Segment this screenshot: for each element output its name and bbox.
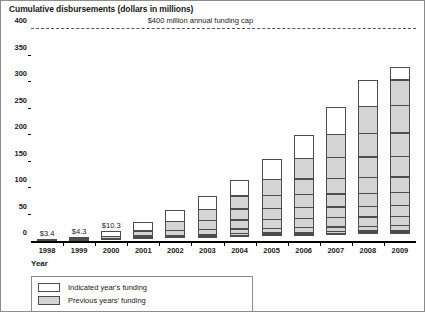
chart-legend: Indicated year's funding Previous years'…	[31, 276, 253, 312]
y-axis-tick-mark	[28, 161, 31, 162]
x-axis-tick-mark	[352, 243, 353, 246]
legend-swatch-previous-years	[38, 296, 60, 305]
x-axis-tick-mark	[320, 243, 321, 246]
bar-segment-previous-year	[358, 177, 378, 193]
bar-segment-previous-year	[294, 158, 314, 179]
legend-swatch-indicated-year	[38, 283, 60, 292]
bar-segment-previous-year	[230, 235, 250, 237]
bar[interactable]	[262, 159, 282, 241]
bar-segment-previous-year	[165, 236, 185, 238]
bar-segment-indicated-year	[294, 135, 314, 159]
x-axis-tick-label: 2003	[199, 246, 216, 255]
y-axis-tick-mark	[28, 134, 31, 135]
bar-segment-previous-year	[262, 179, 282, 195]
x-axis-tick-mark	[191, 243, 192, 246]
bar[interactable]	[101, 231, 121, 241]
bar-segment-indicated-year	[390, 67, 410, 80]
bar-segment-previous-year	[390, 133, 410, 157]
x-axis-tick-label: 2006	[295, 246, 312, 255]
x-axis-tick-label: 2005	[263, 246, 280, 255]
y-axis-tick-label: 50	[19, 201, 27, 210]
y-axis-tick-label: 150	[14, 148, 27, 157]
x-axis-tick-mark	[224, 243, 225, 246]
bar-segment-previous-year	[101, 238, 121, 240]
bar-segment-previous-year	[390, 177, 410, 193]
funding-cap-label: $400 million annual funding cap	[145, 16, 257, 25]
plot-area: 050100150200250300350400 $400 million an…	[31, 29, 416, 243]
bar-value-label: $4.3	[72, 227, 87, 236]
bar-segment-indicated-year	[262, 159, 282, 180]
bar[interactable]	[230, 180, 250, 241]
legend-label-previous-years: Previous years' funding	[68, 296, 146, 305]
bar-segment-previous-year	[326, 134, 346, 158]
bar-segment-previous-year	[294, 194, 314, 208]
x-axis-tick-label: 2002	[167, 246, 184, 255]
bar-value-label: $3.4	[40, 229, 55, 238]
legend-item: Previous years' funding	[38, 294, 246, 307]
x-axis-tick-mark	[95, 243, 96, 246]
bar-segment-previous-year	[198, 209, 218, 220]
y-axis-tick-label: 350	[14, 42, 27, 51]
bar-segment-previous-year	[358, 232, 378, 234]
bar[interactable]	[294, 135, 314, 241]
legend-item: Indicated year's funding	[38, 281, 246, 294]
bar-segment-indicated-year	[230, 180, 250, 196]
bar-segment-previous-year	[262, 208, 282, 219]
y-axis-tick-mark	[28, 55, 31, 56]
funding-cap-line	[31, 28, 416, 29]
x-axis-tick-label: 2004	[231, 246, 248, 255]
chart-title: Cumulative disbursements (dollars in mil…	[9, 4, 193, 14]
y-axis-tick-mark	[28, 81, 31, 82]
bar-segment-indicated-year	[165, 210, 185, 221]
y-axis-tick-mark	[28, 214, 31, 215]
bar-segment-previous-year	[358, 106, 378, 134]
bar-segment-previous-year	[358, 206, 378, 217]
x-axis-tick-mark	[159, 243, 160, 246]
bar-value-label: $10.3	[102, 221, 121, 230]
bar-segment-previous-year	[326, 207, 346, 218]
bar-segment-previous-year	[358, 193, 378, 207]
bar-segment-indicated-year	[198, 196, 218, 210]
y-axis-tick-mark	[28, 108, 31, 109]
bar-segment-previous-year	[262, 234, 282, 236]
x-axis-tick-label: 2007	[327, 246, 344, 255]
legend-label-indicated-year: Indicated year's funding	[68, 283, 147, 292]
bar[interactable]	[165, 210, 185, 241]
bar[interactable]	[326, 107, 346, 241]
y-axis-tick-mark	[28, 187, 31, 188]
bar[interactable]	[133, 222, 153, 241]
bar-segment-indicated-year	[326, 107, 346, 135]
x-axis-tick-label: 2001	[135, 246, 152, 255]
x-axis-tick-label: 2008	[360, 246, 377, 255]
y-axis-tick-label: 400	[14, 16, 27, 25]
bar-segment-previous-year	[230, 209, 250, 220]
bar-segment-previous-year	[390, 105, 410, 133]
bar-segment-previous-year	[326, 157, 346, 178]
y-axis-tick-label: 100	[14, 175, 27, 184]
bar-segment-previous-year	[133, 237, 153, 239]
bar-segment-previous-year	[294, 207, 314, 218]
x-axis-tick-mark	[256, 243, 257, 246]
bar-segment-previous-year	[358, 157, 378, 178]
bar-segment-indicated-year	[358, 80, 378, 106]
bar[interactable]	[198, 196, 218, 241]
bar[interactable]	[358, 80, 378, 241]
bar-segment-previous-year	[358, 133, 378, 157]
bar-segment-previous-year	[390, 192, 410, 206]
bar[interactable]	[390, 67, 410, 241]
x-axis-tick-mark	[288, 243, 289, 246]
chart-frame: Cumulative disbursements (dollars in mil…	[0, 0, 425, 312]
bar-segment-previous-year	[294, 234, 314, 236]
bar-segment-previous-year	[326, 194, 346, 208]
x-axis-tick-label: 1998	[39, 246, 56, 255]
x-axis-title: Year	[31, 259, 48, 268]
x-axis-tick-mark	[384, 243, 385, 246]
x-axis-tick-mark	[127, 243, 128, 246]
y-axis-tick-label: 0	[23, 228, 27, 237]
bar-segment-previous-year	[390, 205, 410, 216]
bar-segment-previous-year	[262, 195, 282, 209]
x-axis-tick-label: 2009	[392, 246, 409, 255]
y-axis-tick-label: 300	[14, 69, 27, 78]
bar-segment-previous-year	[326, 178, 346, 194]
y-axis-tick-label: 200	[14, 122, 27, 131]
